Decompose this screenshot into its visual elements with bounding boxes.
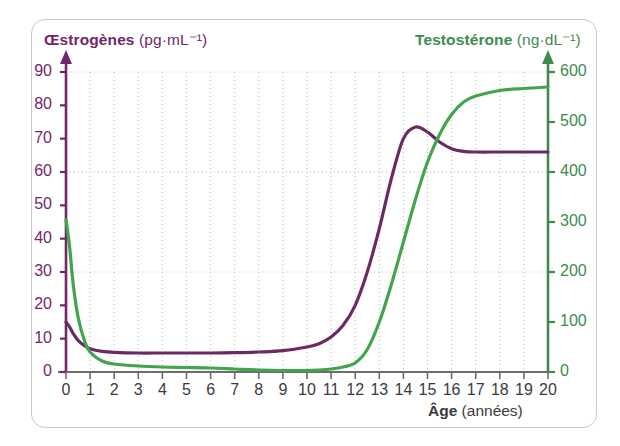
left-axis-arrowhead [60, 50, 72, 64]
right-axis-tick-label: 500 [560, 112, 600, 130]
x-axis-tick-label: 18 [487, 381, 513, 399]
x-axis-tick-label: 13 [366, 381, 392, 399]
right-axis-tick-label: 0 [560, 362, 600, 380]
x-axis-tick-label: 1 [77, 381, 103, 399]
chart-plot-area [0, 0, 620, 446]
x-axis-tick-label: 14 [390, 381, 416, 399]
left-axis-tick-label: 60 [20, 162, 52, 180]
right-axis-tick-label: 200 [560, 262, 600, 280]
left-axis-tick-label: 0 [20, 362, 52, 380]
left-axis-tick-label: 70 [20, 129, 52, 147]
x-axis-tick-label: 9 [270, 381, 296, 399]
x-axis-tick-label: 12 [342, 381, 368, 399]
left-axis-tick-label: 10 [20, 329, 52, 347]
left-axis-tick-label: 40 [20, 229, 52, 247]
left-axis-tick-label: 20 [20, 295, 52, 313]
x-axis-tick-label: 19 [511, 381, 537, 399]
right-axis-arrowhead [542, 50, 554, 64]
right-axis-tick-label: 300 [560, 212, 600, 230]
x-axis-tick-label: 11 [318, 381, 344, 399]
x-axis-tick-label: 15 [415, 381, 441, 399]
x-axis-tick-label: 2 [101, 381, 127, 399]
x-axis-tick-label: 17 [463, 381, 489, 399]
x-axis-tick-label: 0 [53, 381, 79, 399]
hormone-chart-figure: Œstrogènes (pg·mL⁻¹) Testostérone (ng·dL… [0, 0, 620, 446]
x-axis-tick-label: 20 [535, 381, 561, 399]
x-axis-tick-label: 3 [125, 381, 151, 399]
x-axis-tick-label: 7 [222, 381, 248, 399]
x-axis-tick-label: 4 [149, 381, 175, 399]
x-axis-tick-label: 8 [246, 381, 272, 399]
left-axis-tick-label: 90 [20, 62, 52, 80]
left-axis-tick-label: 80 [20, 95, 52, 113]
x-axis-tick-label: 16 [439, 381, 465, 399]
axis-lines-group [58, 50, 554, 372]
right-axis-tick-label: 600 [560, 62, 600, 80]
x-axis-tick-label: 5 [174, 381, 200, 399]
right-axis-tick-label: 400 [560, 162, 600, 180]
x-axis-tick-label: 10 [294, 381, 320, 399]
left-axis-tick-label: 30 [20, 262, 52, 280]
left-axis-tick-label: 50 [20, 195, 52, 213]
x-axis-tick-label: 6 [198, 381, 224, 399]
gridlines-group [66, 72, 548, 372]
right-axis-tick-label: 100 [560, 312, 600, 330]
